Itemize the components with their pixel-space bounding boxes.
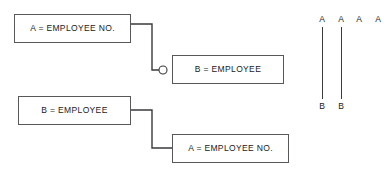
ladder-bottom-label-1: B [316, 102, 328, 111]
ladder-top-label-1: A [316, 15, 328, 24]
relationship-circle-icon [159, 66, 167, 74]
ladder-top-label-4: A [372, 15, 384, 24]
entity-box-a-employee-no-top[interactable]: A = EMPLOYEE NO. [14, 14, 131, 43]
ladder-top-label-3: A [353, 15, 365, 24]
connector-line-diagram-one [131, 24, 163, 70]
entity-relationship-figure: A = EMPLOYEE NO. B = EMPLOYEE B = EMPLOY… [0, 0, 392, 175]
connector-line-diagram-two [131, 110, 172, 148]
entity-box-label: B = EMPLOYEE [41, 106, 107, 115]
entity-box-b-employee-bottom[interactable]: B = EMPLOYEE [18, 96, 131, 125]
entity-box-label: A = EMPLOYEE NO. [30, 24, 115, 33]
ladder-connector-line-1 [322, 27, 323, 99]
ladder-bottom-label-2: B [335, 102, 347, 111]
entity-box-a-employee-no-bottom[interactable]: A = EMPLOYEE NO. [172, 134, 289, 163]
ladder-top-label-2: A [335, 15, 347, 24]
ladder-connector-line-2 [341, 27, 342, 99]
entity-box-b-employee-top[interactable]: B = EMPLOYEE [172, 55, 284, 84]
entity-box-label: A = EMPLOYEE NO. [188, 144, 273, 153]
entity-box-label: B = EMPLOYEE [195, 65, 261, 74]
